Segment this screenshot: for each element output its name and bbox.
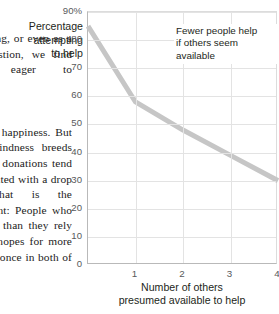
gridline-horizontal (88, 209, 276, 210)
chart-annotation-line: available (176, 50, 276, 62)
chart-annotation-line: if others seem (176, 37, 276, 49)
x-axis-tick-labels: 1234 (87, 268, 277, 282)
x-axis-title: Number of others presumed available to h… (87, 281, 277, 308)
chart-annotation: Fewer people help if others seem availab… (174, 24, 278, 64)
y-axis-tick-labels: 90%80706050403020100 (48, 11, 82, 264)
gridline-horizontal (88, 237, 276, 238)
y-axis-tick-label: 60 (48, 90, 82, 100)
x-axis-tick-label: 3 (218, 268, 242, 280)
y-axis-tick-label: 0 (48, 259, 82, 269)
x-axis-tick-label: 4 (265, 268, 279, 280)
gridline-horizontal (88, 124, 276, 125)
y-axis-tick-label: 30 (48, 175, 82, 185)
gridline-horizontal (88, 68, 276, 69)
y-axis-tick-label: 90% (48, 6, 82, 16)
y-axis-tick-label: 50 (48, 118, 82, 128)
y-axis-tick-label: 20 (48, 203, 82, 213)
y-axis-tick-label: 70 (48, 62, 82, 72)
y-axis-tick-label: 80 (48, 34, 82, 44)
gridline-horizontal (88, 12, 276, 13)
x-axis-title-line: Number of others (87, 281, 277, 294)
y-axis-tick-label: 40 (48, 147, 82, 157)
y-axis-tick-label: 10 (48, 231, 82, 241)
x-axis-tick-label: 2 (170, 268, 194, 280)
x-axis-tick-label: 1 (123, 268, 147, 280)
chart-annotation-line: Fewer people help (176, 25, 276, 37)
gridline-horizontal (88, 96, 276, 97)
gridline-vertical (136, 12, 137, 263)
chart-figure: Percentage attempting to help 90%8070605… (0, 0, 279, 314)
gridline-horizontal (88, 153, 276, 154)
x-axis-title-line: presumed available to help (87, 294, 277, 307)
gridline-horizontal (88, 181, 276, 182)
